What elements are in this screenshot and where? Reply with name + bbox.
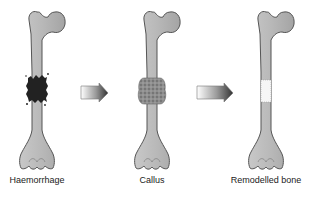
stage-label-remodelled: Remodelled bone: [231, 175, 302, 185]
remodelled-segment: [261, 80, 271, 102]
diagram-canvas: Haemorrhage Callus Remodelled bone: [0, 0, 312, 198]
bone-callus: [135, 11, 181, 169]
stage-label-callus: Callus: [139, 175, 164, 185]
stage-label-haemorrhage: Haemorrhage: [9, 175, 64, 185]
bone-haemorrhage: [20, 11, 66, 169]
bone-remodelled: [249, 11, 295, 169]
arrow-2-icon: [197, 83, 233, 102]
arrow-1-icon: [81, 83, 108, 102]
callus-mass: [138, 78, 166, 104]
